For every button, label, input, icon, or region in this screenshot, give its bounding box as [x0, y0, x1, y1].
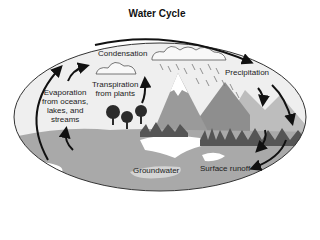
label-condensation: Condensation: [98, 49, 147, 58]
label-surface-runoff: Surface runoff: [200, 164, 250, 173]
label-transpiration: Transpiration from plants: [92, 80, 138, 98]
label-precipitation: Precipitation: [225, 68, 269, 77]
label-evaporation: Evaporation from oceans, lakes, and stre…: [42, 88, 88, 124]
label-groundwater: Groundwater: [133, 166, 179, 175]
